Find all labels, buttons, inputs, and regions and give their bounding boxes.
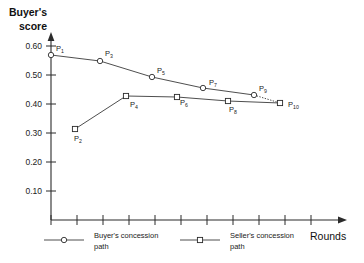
chart-container: Buyer's score 0.60 0.50 0.40 0.30 0.20 0… xyxy=(0,0,364,263)
data-point-p6[interactable] xyxy=(174,94,179,99)
point-label-p2: P2 xyxy=(74,134,82,144)
point-label-p4: P4 xyxy=(130,100,138,110)
legend-seller-label-line1: Seller's concession xyxy=(230,231,294,240)
y-tick-label-040: 0.40 xyxy=(25,99,42,109)
data-point-p4[interactable] xyxy=(123,93,128,98)
data-point-p9[interactable] xyxy=(251,92,256,97)
y-tick-label-020: 0.20 xyxy=(25,157,42,167)
legend-seller-square-icon xyxy=(197,237,202,242)
point-label-p5: P5 xyxy=(157,66,165,76)
point-label-p6: P6 xyxy=(180,98,188,108)
point-label-p9: P9 xyxy=(259,84,267,94)
y-tick-label-010: 0.10 xyxy=(25,186,42,196)
legend-item-seller[interactable]: Seller's concession path xyxy=(180,231,294,251)
data-point-p1[interactable] xyxy=(48,52,53,57)
concession-path-chart: Buyer's score 0.60 0.50 0.40 0.30 0.20 0… xyxy=(0,0,364,263)
point-label-p7: P7 xyxy=(209,78,217,88)
seller-concession-path-line xyxy=(75,96,280,129)
point-label-p8: P8 xyxy=(229,105,237,115)
x-axis-title: Rounds xyxy=(310,230,346,242)
data-point-p3[interactable] xyxy=(97,58,102,63)
y-axis-title-line2: score xyxy=(19,20,47,32)
data-point-p5[interactable] xyxy=(149,74,154,79)
legend-buyer-circle-icon xyxy=(61,237,66,242)
y-tick-label-030: 0.30 xyxy=(25,128,42,138)
seller-marker-group xyxy=(72,93,282,131)
point-label-p10: P10 xyxy=(288,100,299,110)
y-tick-label-050: 0.50 xyxy=(25,70,42,80)
x-axis-arrowhead-icon xyxy=(338,217,347,224)
y-axis-arrowhead-icon xyxy=(48,32,55,41)
legend-buyer-label-line1: Buyer's concession xyxy=(94,231,158,240)
point-label-p1: P1 xyxy=(56,44,64,54)
legend-item-buyer[interactable]: Buyer's concession path xyxy=(44,231,158,251)
legend-buyer-label-line2: path xyxy=(94,242,109,251)
point-label-p3: P3 xyxy=(105,49,113,59)
y-axis-title-line1: Buyer's xyxy=(9,6,47,18)
legend-seller-label-line2: path xyxy=(230,242,245,251)
y-tick-label-060: 0.60 xyxy=(25,41,42,51)
data-point-p2[interactable] xyxy=(72,126,77,131)
data-point-p8[interactable] xyxy=(225,98,230,103)
data-point-p10[interactable] xyxy=(277,100,282,105)
data-point-p7[interactable] xyxy=(200,85,205,90)
